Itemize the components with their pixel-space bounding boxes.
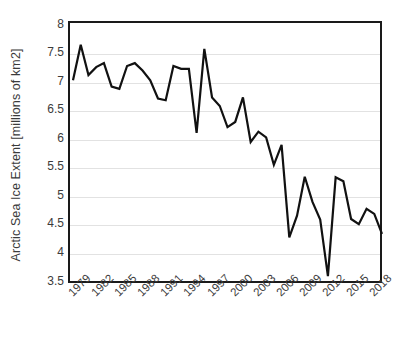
y-tick-label: 5.5 (30, 159, 64, 173)
y-tick-label: 4 (30, 245, 64, 259)
ice-extent-line-series (73, 26, 382, 283)
y-tick-label: 5 (30, 188, 64, 202)
x-axis-tick-labels: 1979198219851988199119941997200020032006… (0, 288, 396, 340)
y-tick-label: 6.5 (30, 102, 64, 116)
y-tick-label: 7.5 (30, 45, 64, 59)
y-tick-label: 6 (30, 131, 64, 145)
y-tick-label: 8 (30, 17, 64, 31)
y-axis-title: Arctic Sea Ice Extent [millions of km2] (0, 0, 30, 310)
y-axis-title-text: Arctic Sea Ice Extent [millions of km2] (8, 49, 22, 262)
y-tick-label: 4.5 (30, 216, 64, 230)
data-line (73, 44, 382, 275)
y-tick-label: 7 (30, 74, 64, 88)
chart-figure: Arctic Sea Ice Extent [millions of km2] … (0, 0, 396, 340)
y-tick-label: 3.5 (30, 274, 64, 288)
plot-area (68, 21, 382, 283)
